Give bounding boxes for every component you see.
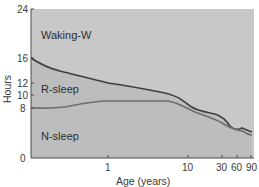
r-sleep-label: R-sleep — [41, 83, 79, 95]
y-tick-0: 0 — [20, 153, 26, 164]
y-axis-title: Hours — [1, 75, 13, 103]
x-tick-1: 1 — [105, 162, 111, 173]
y-tick-24: 24 — [17, 4, 29, 15]
x-tick-30: 30 — [216, 162, 228, 173]
x-tick-90: 90 — [246, 162, 258, 173]
waking-label: Waking-W — [41, 29, 92, 41]
y-tick-8: 8 — [20, 103, 26, 114]
x-tick-60: 60 — [231, 162, 243, 173]
y-tick-10: 10 — [17, 90, 29, 101]
x-tick-10: 10 — [182, 162, 194, 173]
n-sleep-label: N-sleep — [41, 130, 79, 142]
y-tick-12: 12 — [17, 78, 29, 89]
y-tick-16: 16 — [17, 53, 29, 64]
sleep-age-chart: 24 16 12 10 8 0 1 10 30 60 90 Age (years… — [0, 0, 259, 187]
x-axis-title: Age (years) — [116, 175, 170, 187]
